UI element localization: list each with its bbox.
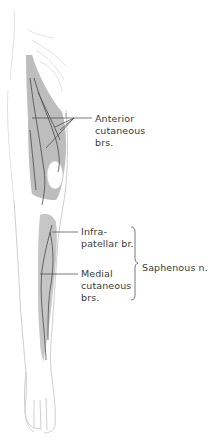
patella — [47, 161, 63, 189]
label-anterior-cutaneous-branches: Anterior cutaneous brs. — [95, 113, 145, 149]
label-infrapatellar-branch: Infra- patellar br. — [81, 226, 134, 250]
label-medial-cutaneous-branches: Medial cutaneous brs. — [81, 268, 131, 304]
label-saphenous-nerve: Saphenous n. — [142, 262, 208, 274]
lower-limb-illustration — [0, 0, 214, 443]
saphenous-region — [38, 214, 57, 362]
